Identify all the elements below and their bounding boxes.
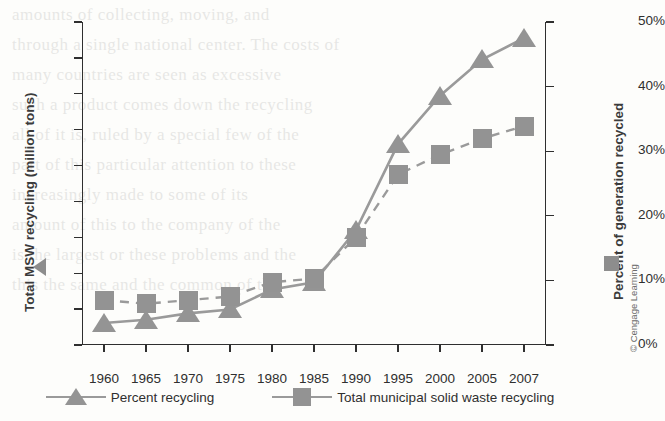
data-point-percent-recycling <box>386 134 410 153</box>
right-tick <box>546 21 554 22</box>
data-point-total-msw-recycling <box>473 129 492 148</box>
data-point-total-msw-recycling <box>389 165 408 184</box>
legend-label: Percent recycling <box>111 390 215 405</box>
square-icon <box>604 256 619 271</box>
left-tick <box>74 273 82 274</box>
right-tick-label: 20% <box>638 207 665 222</box>
data-point-total-msw-recycling <box>263 273 282 292</box>
data-point-total-msw-recycling <box>305 269 324 288</box>
data-point-total-msw-recycling <box>347 228 366 247</box>
right-tick <box>546 151 554 152</box>
data-point-total-msw-recycling <box>431 145 450 164</box>
x-tick <box>355 344 356 352</box>
data-point-total-msw-recycling <box>221 287 240 306</box>
left-axis-title: Total MSW recycling (million tons) <box>22 92 37 312</box>
left-tick <box>74 165 82 166</box>
x-tick <box>103 344 104 352</box>
right-tick-label: 30% <box>638 142 665 157</box>
x-tick <box>271 344 272 352</box>
chart-legend: Percent recycling Total municipal solid … <box>0 381 600 413</box>
legend-item-total-msw-recycling[interactable]: Total municipal solid waste recycling <box>272 387 554 407</box>
data-point-total-msw-recycling <box>95 291 114 310</box>
left-tick <box>74 93 82 94</box>
left-tick <box>74 129 82 130</box>
right-tick <box>546 215 554 216</box>
data-point-percent-recycling <box>512 28 536 47</box>
right-tick-label: 50% <box>638 13 665 28</box>
data-point-total-msw-recycling <box>179 291 198 310</box>
right-tick-label: 10% <box>638 271 665 286</box>
data-point-total-msw-recycling <box>137 294 156 313</box>
left-tick <box>74 201 82 202</box>
x-tick <box>439 344 440 352</box>
right-tick-label: 40% <box>638 78 665 93</box>
square-marker-icon <box>272 387 332 407</box>
x-tick <box>397 344 398 352</box>
x-tick <box>523 344 524 352</box>
left-tick <box>74 21 82 22</box>
triangle-left-pointing-icon <box>33 258 46 276</box>
triangle-marker-icon <box>46 387 106 407</box>
left-tick <box>74 237 82 238</box>
plot-area: 0102030405060708090 0%10%20%30%40%50% 19… <box>82 22 546 345</box>
right-tick <box>546 86 554 87</box>
x-tick <box>313 344 314 352</box>
legend-item-percent-recycling[interactable]: Percent recycling <box>46 387 215 407</box>
left-tick <box>74 344 82 345</box>
data-point-total-msw-recycling <box>515 117 534 136</box>
left-tick <box>74 308 82 309</box>
data-point-percent-recycling <box>92 313 116 332</box>
right-tick <box>546 344 554 345</box>
right-tick-label: 0% <box>638 336 658 351</box>
left-tick <box>74 57 82 58</box>
x-tick <box>229 344 230 352</box>
x-tick <box>481 344 482 352</box>
x-tick <box>145 344 146 352</box>
x-tick <box>187 344 188 352</box>
legend-label: Total municipal solid waste recycling <box>337 390 554 405</box>
right-tick <box>546 280 554 281</box>
data-point-percent-recycling <box>428 86 452 105</box>
data-point-percent-recycling <box>470 49 494 68</box>
